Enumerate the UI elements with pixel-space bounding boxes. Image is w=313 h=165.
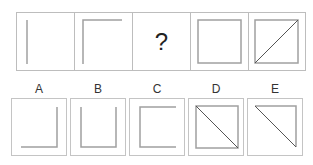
option-e[interactable]	[247, 98, 303, 156]
option-e-label: E	[247, 82, 303, 96]
option-c-label: C	[129, 82, 185, 96]
option-b-label: B	[70, 82, 126, 96]
sequence-cell-5	[249, 13, 307, 70]
option-b[interactable]	[70, 98, 126, 156]
c-shape-figure	[130, 99, 186, 157]
square-diagonal-figure	[249, 13, 307, 70]
sequence-cell-1	[17, 13, 75, 70]
sequence-cell-4	[191, 13, 249, 70]
top-right-diagonal-figure	[248, 99, 304, 157]
sequence-cell-3: ?	[133, 13, 191, 70]
left-top-lines-figure	[75, 13, 133, 70]
square-figure	[191, 13, 249, 70]
option-c[interactable]	[129, 98, 185, 156]
option-d-label: D	[188, 82, 244, 96]
right-bottom-lines-figure	[12, 99, 68, 157]
option-a-label: A	[11, 82, 67, 96]
option-a[interactable]	[11, 98, 67, 156]
option-d[interactable]	[188, 98, 244, 156]
u-shape-figure	[71, 99, 127, 157]
square-diagonal-figure	[189, 99, 245, 157]
sequence-row: ?	[16, 12, 306, 71]
question-mark: ?	[133, 13, 190, 70]
left-line-figure	[17, 13, 75, 70]
sequence-cell-2	[75, 13, 133, 70]
